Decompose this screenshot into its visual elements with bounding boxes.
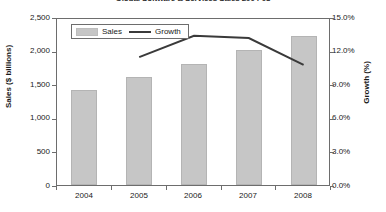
y-tick-right-9: 9.0% — [332, 81, 380, 89]
x-tick-2005: 2005 — [111, 192, 167, 200]
y-axis-left-title: Sales ($ billions) — [4, 7, 13, 147]
bar-2008 — [291, 36, 317, 185]
chart-container: Global Software & Services Sales 2004-08… — [0, 0, 386, 212]
plot-area: Sales Growth — [56, 18, 330, 186]
tickmark-x-4 — [275, 186, 276, 190]
tickmark-x-0 — [56, 186, 57, 190]
legend-item-sales: Sales — [76, 28, 122, 36]
y-tick-right-12: 12.0% — [332, 47, 380, 55]
chart-legend: Sales Growth — [71, 24, 189, 39]
tickmark-x-5 — [330, 186, 331, 190]
y-tick-left-2000: 2,000 — [6, 47, 50, 55]
tickmark-right-12 — [330, 52, 334, 53]
y-tick-left-2500: 2,500 — [6, 14, 50, 22]
legend-item-growth: Growth — [129, 28, 181, 36]
bar-2007 — [236, 50, 262, 185]
bar-2004 — [71, 90, 97, 185]
x-tick-2007: 2007 — [220, 192, 276, 200]
tickmark-x-2 — [166, 186, 167, 190]
tickmark-x-3 — [221, 186, 222, 190]
legend-line-swatch-icon — [129, 31, 151, 33]
tickmark-right-6 — [330, 119, 334, 120]
tickmark-x-1 — [111, 186, 112, 190]
bar-2005 — [126, 77, 152, 185]
y-tick-right-0: 0.0% — [332, 182, 380, 190]
x-tick-2004: 2004 — [56, 192, 112, 200]
x-tick-2006: 2006 — [165, 192, 221, 200]
legend-label-sales: Sales — [102, 28, 122, 36]
y-tick-left-1500: 1,500 — [6, 81, 50, 89]
bar-2006 — [181, 64, 207, 185]
y-tick-left-1000: 1,000 — [6, 114, 50, 122]
y-tick-right-6: 6.0% — [332, 114, 380, 122]
y-tick-right-3: 3.0% — [332, 148, 380, 156]
x-tick-2008: 2008 — [275, 192, 331, 200]
y-tick-right-15: 15.0% — [332, 14, 380, 22]
legend-label-growth: Growth — [155, 28, 181, 36]
growth-line — [139, 36, 303, 65]
legend-bar-swatch-icon — [76, 28, 98, 36]
tickmark-right-3 — [330, 152, 334, 153]
tickmark-right-9 — [330, 85, 334, 86]
tickmark-right-15 — [330, 18, 334, 19]
y-tick-left-500: 500 — [6, 148, 50, 156]
chart-title: Global Software & Services Sales 2004-08 — [0, 0, 386, 3]
y-tick-left-0: 0 — [6, 182, 50, 190]
